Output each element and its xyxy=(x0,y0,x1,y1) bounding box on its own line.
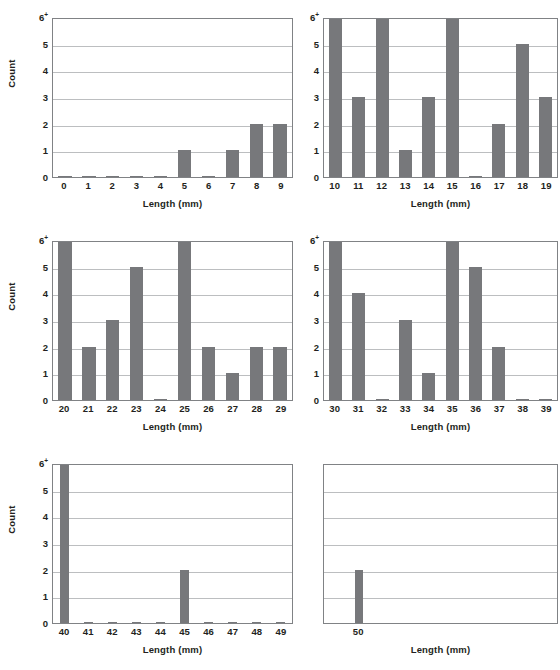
bar-series xyxy=(53,465,292,623)
bar[interactable] xyxy=(178,150,191,177)
bar[interactable] xyxy=(376,18,389,177)
y-axis-tick-label: 4 xyxy=(314,67,319,77)
x-axis-tick-label: 31 xyxy=(347,403,371,414)
bar[interactable] xyxy=(130,176,143,178)
x-axis-tick-label: 23 xyxy=(124,403,148,414)
x-axis-tick-label: 1 xyxy=(76,180,100,191)
bar[interactable] xyxy=(106,320,119,400)
bar-slot xyxy=(125,19,149,177)
bar[interactable] xyxy=(399,150,412,177)
y-axis-tick-label: 0 xyxy=(314,173,319,183)
bar[interactable] xyxy=(58,241,71,400)
bar-slot xyxy=(394,19,417,177)
bar[interactable] xyxy=(376,399,389,401)
bar-slot xyxy=(417,465,440,623)
bar[interactable] xyxy=(58,176,71,178)
plot-wrapper: 0123456+20212223242526272829Length (mm) xyxy=(28,241,295,401)
x-axis-tick-label xyxy=(511,626,535,637)
bar[interactable] xyxy=(446,18,459,177)
bar[interactable] xyxy=(273,124,286,177)
plot-wrapper: 0123456+40414243444546474849Length (mm) xyxy=(28,464,295,624)
y-axis-ticks: 0123456+ xyxy=(299,18,321,178)
bar[interactable] xyxy=(202,347,215,400)
histogram-panel-1: Count0123456+0123456789Length (mm) xyxy=(0,18,295,233)
y-axis-tick-label: 6+ xyxy=(39,459,48,469)
bar[interactable] xyxy=(226,150,239,177)
bar[interactable] xyxy=(106,176,119,178)
bar[interactable] xyxy=(469,176,482,178)
bar[interactable] xyxy=(516,399,529,401)
bar-slot xyxy=(173,242,197,400)
x-axis-tick-label xyxy=(441,626,465,637)
x-axis-ticks: 10111213141516171819 xyxy=(323,180,558,191)
bar-slot xyxy=(324,465,347,623)
y-axis-tick-label: 5 xyxy=(43,263,48,273)
bar[interactable] xyxy=(108,622,117,624)
bar-slot xyxy=(196,465,220,623)
bar[interactable] xyxy=(352,293,365,400)
bar[interactable] xyxy=(492,124,505,177)
bar-slot xyxy=(244,19,268,177)
x-axis-tick-label: 30 xyxy=(323,403,347,414)
x-axis-tick-label: 43 xyxy=(124,626,148,637)
bar[interactable] xyxy=(516,44,529,177)
x-axis-tick-label: 28 xyxy=(245,403,269,414)
bar[interactable] xyxy=(84,622,93,624)
bar-series xyxy=(324,242,557,400)
bar[interactable] xyxy=(180,570,189,623)
bar[interactable] xyxy=(60,464,69,623)
x-axis-ticks: 0123456789 xyxy=(52,180,293,191)
bar-slot xyxy=(268,465,292,623)
bar[interactable] xyxy=(469,267,482,400)
y-axis-tick-label: 1 xyxy=(314,147,319,157)
bar-slot xyxy=(371,242,394,400)
bar[interactable] xyxy=(82,176,95,178)
bar[interactable] xyxy=(492,347,505,400)
bar[interactable] xyxy=(250,124,263,177)
bar[interactable] xyxy=(156,622,165,624)
bar[interactable] xyxy=(132,622,141,624)
bar[interactable] xyxy=(355,570,364,623)
bar[interactable] xyxy=(204,622,213,624)
bar-slot xyxy=(53,242,77,400)
bar[interactable] xyxy=(446,241,459,400)
x-axis-tick-label: 37 xyxy=(488,403,512,414)
bar[interactable] xyxy=(539,399,552,401)
bar[interactable] xyxy=(273,347,286,400)
bar[interactable] xyxy=(178,241,191,400)
bar[interactable] xyxy=(329,18,342,177)
bar[interactable] xyxy=(352,97,365,177)
histogram-panel-6: 50Length (mm) xyxy=(295,464,560,670)
bar-slot xyxy=(394,242,417,400)
bar[interactable] xyxy=(329,241,342,400)
x-axis-tick-label: 48 xyxy=(245,626,269,637)
bar[interactable] xyxy=(154,399,167,401)
y-axis-tick-label: 6+ xyxy=(310,13,319,23)
bar[interactable] xyxy=(422,373,435,400)
bar[interactable] xyxy=(539,97,552,177)
x-axis-tick-label: 17 xyxy=(488,180,512,191)
bar-slot xyxy=(417,19,440,177)
y-axis-tick-label: 2 xyxy=(43,120,48,130)
bar[interactable] xyxy=(422,97,435,177)
bar[interactable] xyxy=(226,373,239,400)
x-axis-tick-label: 8 xyxy=(245,180,269,191)
x-axis-tick-label: 49 xyxy=(269,626,293,637)
y-axis-ticks: 0123456+ xyxy=(299,241,321,401)
bar-slot xyxy=(534,19,557,177)
bar[interactable] xyxy=(82,347,95,400)
bar[interactable] xyxy=(228,622,237,624)
bar-slot xyxy=(534,465,557,623)
bar[interactable] xyxy=(154,176,167,178)
bar[interactable] xyxy=(130,267,143,400)
bar[interactable] xyxy=(276,622,285,624)
bar-slot xyxy=(244,242,268,400)
bar[interactable] xyxy=(252,622,261,624)
x-axis-title: Length (mm) xyxy=(323,198,558,209)
bar[interactable] xyxy=(399,320,412,400)
y-axis-ticks: 0123456+ xyxy=(28,241,50,401)
bar[interactable] xyxy=(250,347,263,400)
x-axis-tick-label xyxy=(488,626,512,637)
x-axis-tick-label: 9 xyxy=(269,180,293,191)
bar[interactable] xyxy=(202,176,215,178)
